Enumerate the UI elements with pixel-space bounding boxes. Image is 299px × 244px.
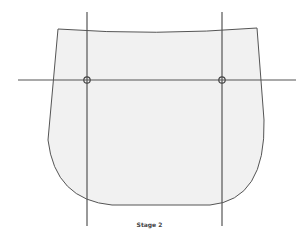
diagram-caption: Stage 2 xyxy=(0,221,299,228)
pattern-shape xyxy=(48,28,264,205)
stage-diagram xyxy=(0,0,299,244)
